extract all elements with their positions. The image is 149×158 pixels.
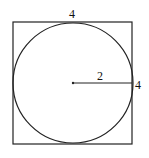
square-inscribed-circle-diagram: 4 2 4 [0,0,149,158]
label-top-side: 4 [69,7,75,21]
label-radius: 2 [97,69,103,83]
label-right-side: 4 [135,78,141,92]
